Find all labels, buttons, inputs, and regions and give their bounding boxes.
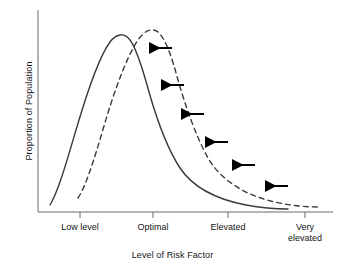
x-tick-label-low-level: Low level xyxy=(61,222,99,233)
y-axis-title: Proportion of Population xyxy=(24,31,34,191)
x-axis-ticks xyxy=(80,212,305,218)
shift-arrows-group xyxy=(149,48,288,186)
x-axis-title: Level of Risk Factor xyxy=(0,250,345,260)
x-tick-label-very-elevated: Very elevated xyxy=(278,222,332,244)
curve-shifted-distribution xyxy=(50,35,288,209)
chart-figure: Proportion of Population Low level Optim… xyxy=(0,0,345,266)
x-tick-label-optimal: Optimal xyxy=(137,222,168,233)
curve-original-distribution xyxy=(78,30,318,207)
x-tick-label-elevated: Elevated xyxy=(210,222,245,233)
